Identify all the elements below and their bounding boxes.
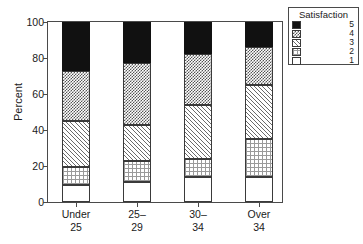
y-tick-mark xyxy=(43,94,47,95)
x-tick-label-line: 25 xyxy=(41,221,111,234)
bar-segment-level-4[interactable] xyxy=(184,54,212,104)
legend-item-2[interactable]: 2 xyxy=(289,48,358,57)
bar-segment-level-5[interactable] xyxy=(62,22,90,71)
x-tick-mark xyxy=(76,203,77,207)
y-tick-mark xyxy=(43,202,47,203)
bar-segment-level-5[interactable] xyxy=(184,22,212,54)
y-tick-mark xyxy=(43,22,47,23)
x-tick-mark xyxy=(259,203,260,207)
legend-swatch-dotted-grid xyxy=(292,48,301,56)
y-tick-label: 40 xyxy=(18,125,44,135)
x-tick-label-line: 30– xyxy=(163,208,233,221)
y-tick-label: 60 xyxy=(18,89,44,99)
x-tick-label-line: 25– xyxy=(102,208,172,221)
y-tick-mark xyxy=(43,130,47,131)
plot-area xyxy=(47,21,283,203)
y-tick-label: 20 xyxy=(18,161,44,171)
bar-25-29[interactable] xyxy=(123,22,151,202)
legend-item-1[interactable]: 1 xyxy=(289,57,358,66)
x-tick-label: 25–29 xyxy=(102,208,172,234)
x-tick-mark xyxy=(198,203,199,207)
x-tick-label-line: 34 xyxy=(163,221,233,234)
x-tick-label-line: 34 xyxy=(224,221,294,234)
legend-swatch-diagonal-hatch xyxy=(292,39,301,47)
x-tick-label-line: 29 xyxy=(102,221,172,234)
bar-segment-level-3[interactable] xyxy=(184,105,212,159)
legend-label: 1 xyxy=(349,56,354,65)
legend: Satisfaction 54321 xyxy=(288,7,359,65)
y-tick-label: 100 xyxy=(18,17,44,27)
bar-30-34[interactable] xyxy=(184,22,212,202)
bar-under-25[interactable] xyxy=(62,22,90,202)
bar-segment-level-5[interactable] xyxy=(245,22,273,47)
bar-segment-level-1[interactable] xyxy=(245,177,273,202)
y-tick-mark xyxy=(43,58,47,59)
x-tick-label: Over34 xyxy=(224,208,294,234)
bar-over-34[interactable] xyxy=(245,22,273,202)
legend-item-4[interactable]: 4 xyxy=(289,30,358,39)
bar-segment-level-4[interactable] xyxy=(62,71,90,121)
bar-segment-level-1[interactable] xyxy=(184,177,212,202)
bar-segment-level-3[interactable] xyxy=(245,85,273,139)
bar-segment-level-3[interactable] xyxy=(123,125,151,161)
legend-swatch-solid-black xyxy=(292,21,301,29)
bar-segment-level-1[interactable] xyxy=(62,185,90,202)
x-tick-label-line: Over xyxy=(224,208,294,221)
y-tick-label: 0 xyxy=(18,197,44,207)
x-tick-mark xyxy=(137,203,138,207)
x-tick-label: Under25 xyxy=(41,208,111,234)
x-tick-label-line: Under xyxy=(41,208,111,221)
y-tick-label: 80 xyxy=(18,53,44,63)
y-axis-tick-labels: 020406080100 xyxy=(14,0,44,244)
legend-title: Satisfaction xyxy=(289,9,358,20)
stacked-bar-chart: Percent 020406080100 Satisfaction 54321 … xyxy=(0,0,363,244)
bar-segment-level-2[interactable] xyxy=(184,159,212,177)
bar-segment-level-1[interactable] xyxy=(123,182,151,202)
bar-segment-level-4[interactable] xyxy=(245,47,273,85)
legend-item-3[interactable]: 3 xyxy=(289,39,358,48)
x-tick-label: 30–34 xyxy=(163,208,233,234)
bar-segment-level-5[interactable] xyxy=(123,22,151,63)
legend-item-5[interactable]: 5 xyxy=(289,21,358,30)
bar-segment-level-3[interactable] xyxy=(62,121,90,167)
bar-segment-level-2[interactable] xyxy=(245,139,273,177)
bar-segment-level-4[interactable] xyxy=(123,63,151,124)
bar-segment-level-2[interactable] xyxy=(62,167,90,185)
bar-segment-level-2[interactable] xyxy=(123,161,151,183)
y-tick-mark xyxy=(43,166,47,167)
legend-swatch-checkerboard xyxy=(292,30,301,38)
legend-swatch-empty-white xyxy=(292,57,301,65)
